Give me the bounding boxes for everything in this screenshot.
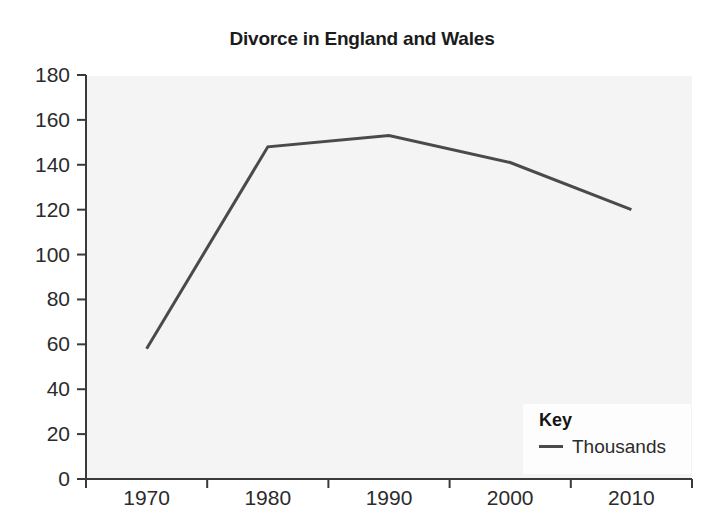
legend-entry-label: Thousands — [572, 437, 666, 456]
y-tick-label: 120 — [12, 199, 70, 220]
x-tick-label: 2000 — [450, 487, 571, 508]
y-tick-label: 20 — [12, 423, 70, 444]
y-tick-label: 40 — [12, 378, 70, 399]
y-tick-label: 80 — [12, 288, 70, 309]
x-tick-label: 1980 — [207, 487, 328, 508]
x-tick-label: 1970 — [86, 487, 207, 508]
y-tick-label: 180 — [12, 64, 70, 85]
series-line-thousands — [147, 136, 632, 349]
y-tick-label: 60 — [12, 333, 70, 354]
x-tick-label: 2010 — [571, 487, 692, 508]
y-tick-label: 0 — [12, 468, 70, 489]
y-tick-label: 100 — [12, 244, 70, 265]
x-tick-label: 1990 — [328, 487, 449, 508]
y-axis-ticks — [77, 75, 86, 479]
legend-title: Key — [539, 410, 691, 431]
y-tick-label: 160 — [12, 109, 70, 130]
legend-line-swatch-icon — [539, 445, 563, 448]
chart-legend: Key Thousands — [523, 404, 691, 474]
y-tick-label: 140 — [12, 154, 70, 175]
legend-entry-thousands: Thousands — [539, 437, 691, 456]
chart-page: Divorce in England and Wales 18016014012… — [0, 0, 724, 526]
